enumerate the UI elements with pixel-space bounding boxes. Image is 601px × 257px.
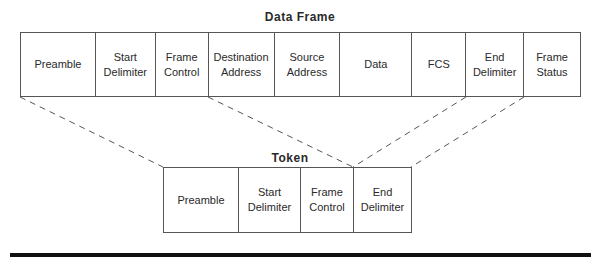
token-title: Token bbox=[240, 151, 340, 165]
token-field-frame-control: Frame Control bbox=[301, 168, 354, 232]
token-frame: Preamble Start Delimiter Frame Control E… bbox=[163, 167, 412, 233]
token-field-start-delimiter: Start Delimiter bbox=[239, 168, 301, 232]
bottom-border bbox=[10, 253, 591, 257]
token-field-end-delimiter: End Delimiter bbox=[354, 168, 411, 232]
token-field-preamble: Preamble bbox=[164, 168, 239, 232]
